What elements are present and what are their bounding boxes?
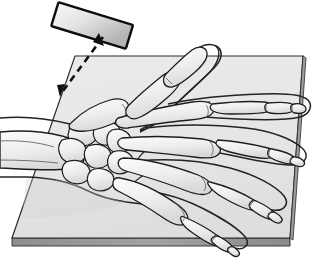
tube-body[interactable]: [51, 2, 133, 49]
index-phalanges: [210, 102, 306, 114]
index-distal-phalanx: [291, 104, 306, 114]
cassette-front-edge: [12, 238, 290, 246]
carpal-pisiform: [62, 160, 90, 183]
carpal-trapezium: [59, 138, 87, 163]
carpal-triquetrum: [87, 169, 114, 191]
index-proximal-phalanx: [210, 102, 272, 114]
radiograph-positioning-figure: Hand radiographic positioning - PA proje…: [0, 0, 325, 265]
carpal-trapezoid: [84, 144, 111, 168]
illustration-canvas: [0, 0, 325, 265]
x-ray-tube-block[interactable]: [51, 2, 133, 49]
